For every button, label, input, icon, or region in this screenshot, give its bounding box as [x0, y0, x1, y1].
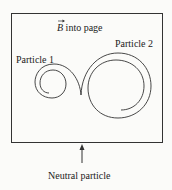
neutral-particle-label: Neutral particle — [48, 170, 110, 181]
particle1-label: Particle 1 — [16, 54, 54, 65]
arrowhead-icon — [80, 144, 85, 150]
particle2-track — [81, 53, 151, 118]
particle2-label: Particle 2 — [115, 38, 153, 49]
field-text: into page — [63, 22, 102, 33]
particle1-track — [35, 64, 81, 98]
field-label: B into page — [57, 22, 103, 33]
